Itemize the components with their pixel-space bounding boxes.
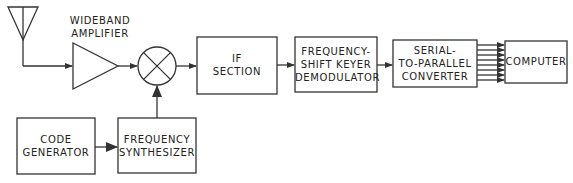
s2p-line1: SERIAL-: [393, 44, 477, 57]
synth-line2: SYNTHESIZER: [118, 146, 196, 159]
synth-line1: FREQUENCY: [118, 133, 196, 146]
frequency-synthesizer-label: FREQUENCY SYNTHESIZER: [118, 133, 196, 159]
if-section-line2: SECTION: [197, 65, 277, 78]
s2p-line2: TO-PARALLEL: [393, 57, 477, 70]
mixer-icon: [138, 47, 176, 85]
serial-to-parallel-label: SERIAL- TO-PARALLEL CONVERTER: [393, 44, 477, 83]
fsk-line3: DEMODULATOR: [295, 71, 377, 84]
fsk-line1: FREQUENCY-: [295, 45, 377, 58]
amplifier-label-line2: AMPLIFIER: [60, 27, 140, 40]
code-generator-label: CODE GENERATOR: [17, 133, 95, 159]
antenna-icon: [8, 7, 38, 66]
fsk-demodulator-label: FREQUENCY- SHIFT KEYER DEMODULATOR: [295, 45, 377, 84]
parallel-bus-arrows: [477, 45, 504, 80]
code-gen-line1: CODE: [17, 133, 95, 146]
if-section-label: IF SECTION: [197, 52, 277, 78]
computer-line1: COMPUTER: [505, 55, 567, 68]
if-section-line1: IF: [197, 52, 277, 65]
wideband-amplifier-symbol: [73, 43, 118, 89]
amplifier-label: WIDEBAND AMPLIFIER: [60, 14, 140, 40]
computer-label: COMPUTER: [505, 55, 567, 68]
amplifier-label-line1: WIDEBAND: [60, 14, 140, 27]
fsk-line2: SHIFT KEYER: [295, 58, 377, 71]
code-gen-line2: GENERATOR: [17, 146, 95, 159]
s2p-line3: CONVERTER: [393, 70, 477, 83]
